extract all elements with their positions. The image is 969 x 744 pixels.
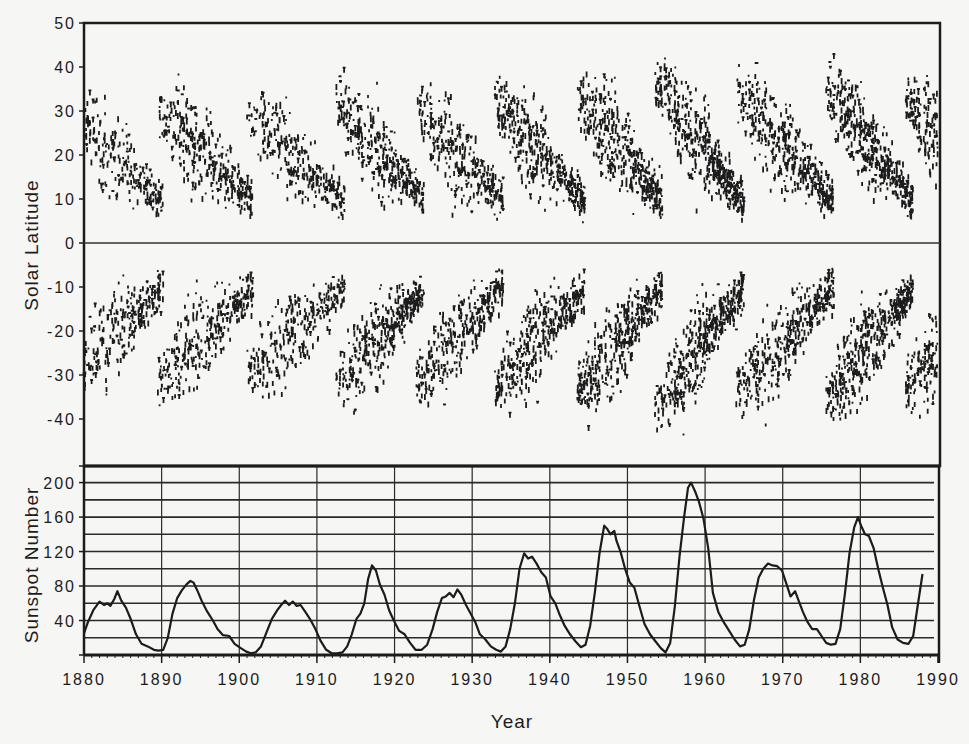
sunspot-axis-title: Sunspot Number	[21, 487, 42, 644]
latitude-tick-label: -10	[47, 279, 76, 296]
sunspot-gridlines	[84, 466, 934, 655]
upper-panel-border	[84, 23, 940, 466]
sunspot-tick-label: 80	[54, 578, 76, 595]
sunspot-tick-label: 40	[54, 613, 76, 630]
sunspot-number-axis: 4080120160200	[43, 475, 84, 655]
year-tick-label: 1980	[839, 671, 883, 688]
sunspot-tick-label: 160	[43, 509, 76, 526]
latitude-tick-label: 20	[54, 147, 76, 164]
latitude-tick-label: 30	[54, 103, 76, 120]
latitude-tick-label: 40	[54, 59, 76, 76]
year-tick-label: 1940	[528, 671, 572, 688]
latitude-tick-label: -20	[47, 323, 76, 340]
year-axis: 1880189019001910192019301940195019601970…	[62, 655, 960, 688]
year-axis-title: Year	[491, 711, 533, 732]
year-tick-label: 1950	[606, 671, 650, 688]
sunspot-tick-label: 120	[43, 544, 76, 561]
solar-cycle-figure: 50403020100-10-20-30-40 4080120160200 18…	[0, 0, 969, 744]
year-tick-label: 1880	[62, 671, 106, 688]
sunspot-tick-label: 200	[43, 475, 76, 492]
year-tick-label: 1930	[450, 671, 494, 688]
year-tick-label: 1900	[217, 671, 261, 688]
year-tick-label: 1960	[683, 671, 727, 688]
latitude-axis: 50403020100-10-20-30-40	[47, 15, 84, 466]
latitude-tick-label: 50	[54, 15, 76, 32]
latitude-dots	[83, 53, 938, 436]
sunspot-number-line	[84, 483, 923, 654]
latitude-axis-title: Solar Latitude	[21, 179, 42, 310]
latitude-tick-label: -30	[47, 367, 76, 384]
year-tick-label: 1970	[761, 671, 805, 688]
year-tick-label: 1890	[140, 671, 184, 688]
year-tick-label: 1990	[916, 671, 960, 688]
sunspot-plot-frame	[84, 466, 940, 663]
latitude-tick-label: 0	[65, 235, 76, 252]
latitude-tick-label: -40	[47, 411, 76, 428]
butterfly-plot-frame	[84, 23, 940, 466]
butterfly-scatter-points	[83, 53, 938, 436]
year-tick-label: 1920	[373, 671, 417, 688]
latitude-tick-label: 10	[54, 191, 76, 208]
chart-canvas: 50403020100-10-20-30-40 4080120160200 18…	[0, 0, 969, 744]
year-tick-label: 1910	[295, 671, 339, 688]
